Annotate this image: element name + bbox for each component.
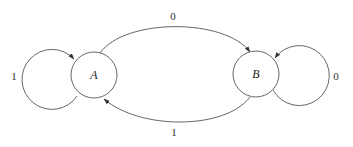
edge-b-to-a-label: 1 bbox=[171, 126, 177, 138]
edge-a-to-b-label: 0 bbox=[170, 10, 176, 22]
self-loop-a-label: 1 bbox=[11, 70, 17, 82]
self-loop-a bbox=[22, 49, 77, 109]
edge-a-to-b bbox=[100, 27, 250, 53]
edge-b-to-a bbox=[104, 97, 250, 122]
self-loop-b-label: 0 bbox=[333, 70, 339, 82]
state-b-label: B bbox=[252, 67, 260, 81]
self-loop-b bbox=[273, 46, 329, 106]
state-a-label: A bbox=[89, 68, 98, 82]
state-diagram: 1 0 0 1 A B bbox=[0, 0, 353, 147]
